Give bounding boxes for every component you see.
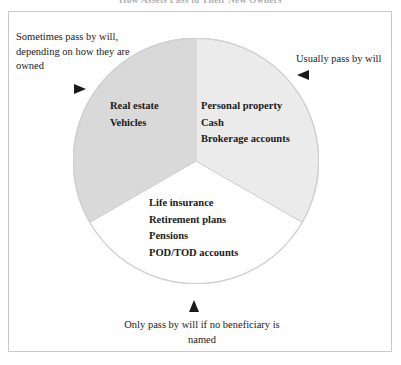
callout-usually-pass: Usually pass by will bbox=[296, 52, 388, 67]
callout-pointer-up-icon bbox=[189, 300, 199, 312]
callout-pointer-left-icon bbox=[74, 84, 86, 94]
pie-slice-label-only-pass-if-no-beneficiary: Life insurance Retirement plans Pensions… bbox=[149, 195, 238, 261]
pie-slice-label-usually-pass: Personal property Cash Brokerage account… bbox=[201, 98, 290, 148]
callout-only-pass-if-no-beneficiary: Only pass by will if no beneficiary is n… bbox=[112, 318, 292, 347]
figure-title: How Assets Pass to Their New Owners bbox=[0, 0, 401, 5]
callout-sometimes-pass: Sometimes pass by will, depending on how… bbox=[16, 30, 140, 74]
pie-slice-label-sometimes-pass: Real estate Vehicles bbox=[110, 98, 159, 131]
callout-pointer-right-icon bbox=[297, 70, 309, 80]
